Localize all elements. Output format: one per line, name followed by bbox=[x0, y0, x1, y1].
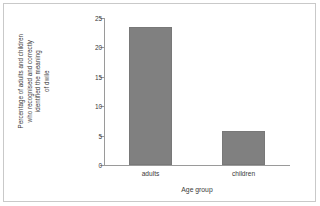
category-label-children: children bbox=[232, 170, 255, 177]
y-tick-label: 0 bbox=[82, 162, 102, 169]
y-tick-label: 25 bbox=[82, 15, 102, 22]
category-label-adults: adults bbox=[142, 170, 160, 177]
y-tick-label: 20 bbox=[82, 44, 102, 51]
y-tick-label: 5 bbox=[82, 132, 102, 139]
plot-area: 0510152025 adultschildren Age group bbox=[104, 18, 290, 165]
y-axis-line bbox=[104, 18, 105, 165]
bar-children bbox=[222, 131, 265, 165]
y-axis-title-line-4: of dwile bbox=[43, 9, 52, 154]
y-axis-title: Percentage of adults and children who re… bbox=[17, 9, 51, 154]
x-axis-line bbox=[104, 165, 290, 166]
x-axis-title: Age group bbox=[104, 186, 290, 193]
y-axis-title-line-1: Percentage of adults and children bbox=[17, 9, 26, 154]
y-axis-title-line-2: who recognised and correctly bbox=[26, 9, 35, 154]
y-tick-label: 10 bbox=[82, 103, 102, 110]
y-axis-title-line-3: identified the meaning bbox=[35, 9, 44, 154]
bar-adults bbox=[129, 27, 172, 165]
chart-frame: Percentage of adults and children who re… bbox=[3, 3, 316, 202]
y-tick-label: 15 bbox=[82, 73, 102, 80]
